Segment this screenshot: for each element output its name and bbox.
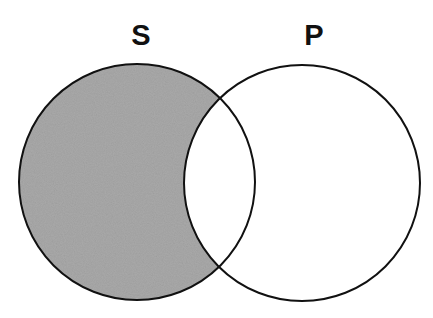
venn-diagram: S P [0,0,433,318]
label-s: S [131,19,150,51]
label-p: P [304,19,323,51]
